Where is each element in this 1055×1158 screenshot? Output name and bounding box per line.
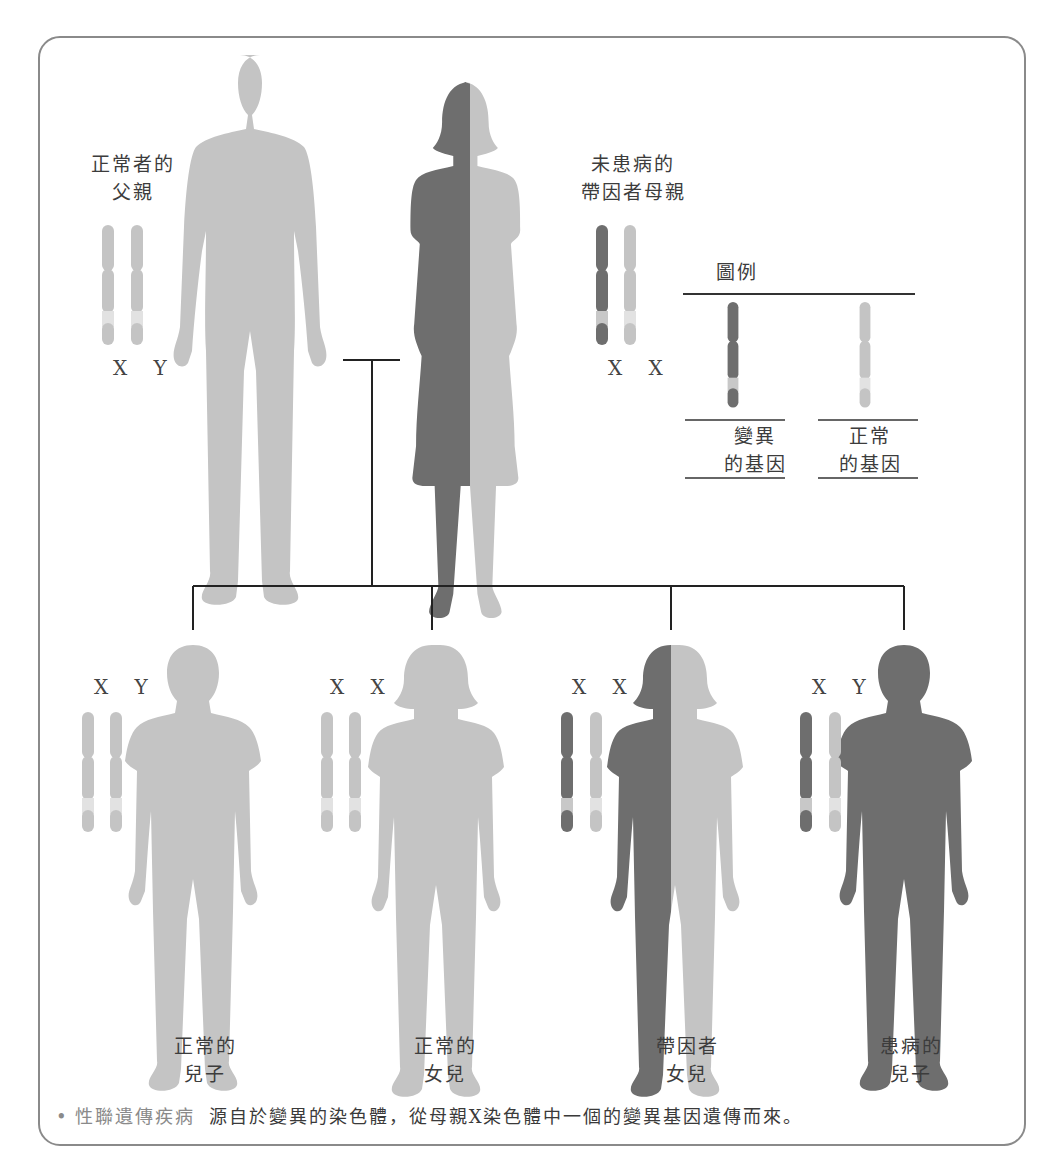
legend-mutant-label: 變異 的基因 bbox=[715, 422, 795, 478]
child-1-label: 正常的 兒子 bbox=[160, 1032, 250, 1088]
child-3-label: 帶因者 女兒 bbox=[642, 1032, 732, 1088]
mother-x1-chromosome bbox=[596, 225, 608, 345]
father-silhouette bbox=[174, 55, 327, 605]
child-normal-son bbox=[125, 645, 261, 1091]
child-normal-daughter bbox=[368, 645, 504, 1097]
caption-text: 源自於變異的染色體，從母親X染色體中一個的變異基因遺傳而來。 bbox=[209, 1106, 804, 1127]
caption-term: 性聯遺傳疾病 bbox=[75, 1106, 195, 1127]
father-y-chromosome bbox=[131, 225, 143, 345]
father-label: 正常者的 父親 bbox=[88, 150, 178, 206]
child-2-chromosome-label: X X bbox=[330, 675, 395, 699]
father-x-chromosome bbox=[102, 225, 114, 345]
child-carrier-daughter bbox=[607, 645, 743, 1097]
child-2-label: 正常的 女兒 bbox=[400, 1032, 490, 1088]
child-affected-son bbox=[836, 645, 972, 1091]
bullet-icon: • bbox=[56, 1106, 69, 1127]
pedigree-lines bbox=[193, 360, 904, 630]
child-3-chromosome-label: X X bbox=[572, 675, 637, 699]
mother-chromosome-label: X X bbox=[608, 356, 673, 380]
legend-normal-chromosome bbox=[860, 302, 871, 408]
mother-x2-chromosome bbox=[624, 225, 636, 345]
legend-mutant-chromosome bbox=[728, 302, 739, 408]
mother-label: 未患病的 帶因者母親 bbox=[568, 150, 698, 206]
legend-title: 圖例 bbox=[716, 258, 758, 286]
legend-normal-label: 正常 的基因 bbox=[830, 422, 910, 478]
child-4-label: 患病的 兒子 bbox=[866, 1032, 956, 1088]
child-1-chromosome-label: X Y bbox=[94, 675, 158, 699]
mother-silhouette bbox=[410, 82, 520, 618]
child-4-chromosome-label: X Y bbox=[812, 675, 876, 699]
father-chromosome-label: X Y bbox=[113, 356, 177, 380]
caption: •性聯遺傳疾病源自於變異的染色體，從母親X染色體中一個的變異基因遺傳而來。 bbox=[56, 1102, 803, 1128]
